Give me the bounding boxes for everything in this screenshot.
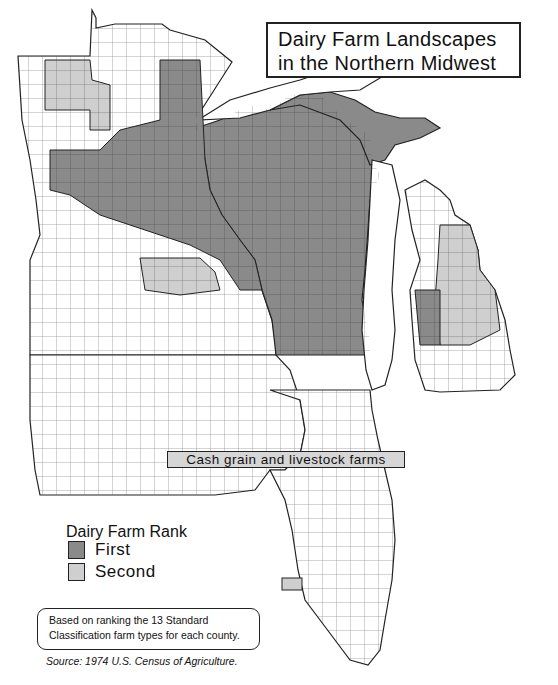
legend-label-first: First bbox=[95, 540, 131, 560]
note-line1: Based on ranking the 13 Standard bbox=[49, 613, 259, 628]
map-title-line1: Dairy Farm Landscapes bbox=[268, 27, 519, 51]
legend-label-second: Second bbox=[95, 562, 156, 582]
map-title-box: Dairy Farm Landscapes in the Northern Mi… bbox=[266, 22, 521, 78]
methodology-note: Based on ranking the 13 Standard Classif… bbox=[37, 608, 260, 650]
note-line2: Classification farm types for each count… bbox=[49, 628, 259, 643]
legend-swatch-second bbox=[68, 563, 85, 581]
map-title-line2: in the Northern Midwest bbox=[268, 51, 519, 75]
cash-grain-label: Cash grain and livestock farms bbox=[167, 451, 405, 468]
legend-swatch-first bbox=[68, 541, 85, 559]
county-map bbox=[0, 0, 558, 685]
il-second-rank-county bbox=[282, 578, 302, 590]
legend-title: Dairy Farm Rank bbox=[66, 523, 187, 541]
source-citation: Source: 1974 U.S. Census of Agriculture. bbox=[46, 655, 238, 667]
